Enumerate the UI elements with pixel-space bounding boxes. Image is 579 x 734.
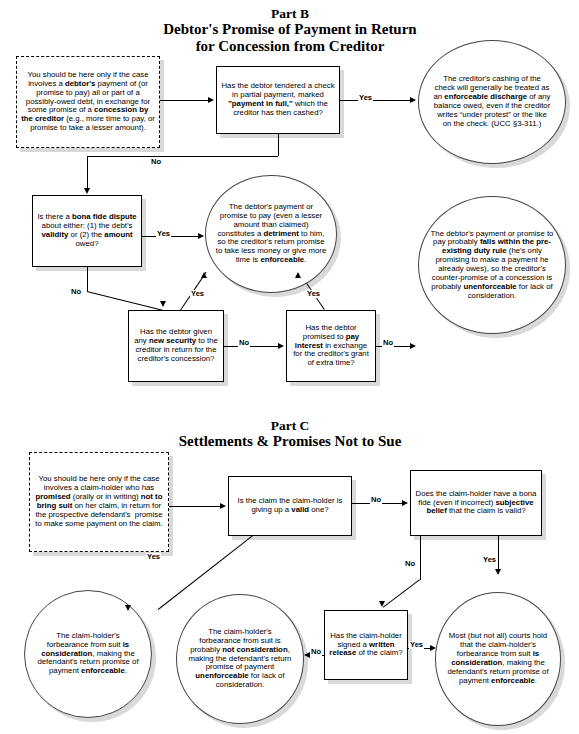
edge-subjective-yes-v bbox=[498, 536, 499, 570]
part-b-title-line2: Debtor's Promise of Payment in Return bbox=[120, 21, 460, 38]
edge-interest-yes-arrow bbox=[295, 272, 301, 278]
edge-check-no-v2 bbox=[87, 156, 88, 189]
question-check-payment-in-full[interactable]: Has the debtor tendered a check in parti… bbox=[216, 66, 340, 134]
edge-subjective-no-arrow bbox=[379, 601, 385, 607]
edge-interest-no-arrow bbox=[410, 343, 416, 349]
outcome-forbearance-not-consideration-text: The claim-holder's forbearance from suit… bbox=[183, 626, 297, 692]
edge-bonafide-yes-arrow bbox=[198, 233, 204, 239]
question-pay-interest-text: Has the debtor promised to pay interest … bbox=[287, 322, 375, 370]
flowchart-page: Part B Debtor's Promise of Payment in Re… bbox=[0, 0, 579, 734]
question-pay-interest[interactable]: Has the debtor promised to pay interest … bbox=[286, 310, 376, 382]
question-subjective-belief-text: Does the claim-holder have a bona fide (… bbox=[411, 488, 541, 519]
edge-valid-yes-arrow bbox=[125, 605, 131, 611]
outcome-most-courts-consideration: Most (but not all) courts hold that the … bbox=[435, 592, 561, 726]
question-bona-fide-dispute-text: Is there a bona fide dispute about eithe… bbox=[33, 211, 141, 251]
part-c-title-line1: Part C bbox=[120, 418, 460, 433]
question-check-payment-in-full-text: Has the debtor tendered a check in parti… bbox=[217, 80, 339, 120]
part-b-title-line1: Part B bbox=[120, 6, 460, 21]
edge-label-subjective-yes: Yes bbox=[482, 556, 497, 564]
edge-check-yes bbox=[340, 100, 410, 101]
edge-valid-no-arrow bbox=[402, 500, 408, 506]
part-c-start-text: You should be here only if the case invo… bbox=[30, 473, 168, 530]
outcome-detriment-enforceable-text: The debtor's payment or promise to pay (… bbox=[211, 201, 331, 267]
part-b-start-text: You should be here only if the case invo… bbox=[17, 69, 159, 135]
question-bona-fide-dispute[interactable]: Is there a bona fide dispute about eithe… bbox=[32, 195, 142, 267]
edge-bonafide-no-arrow bbox=[160, 301, 166, 307]
outcome-forbearance-is-consideration-text: The claim-holder's forbearance from suit… bbox=[31, 630, 145, 678]
edge-label-release-no: No bbox=[310, 648, 322, 656]
outcome-enforceable-discharge: The creditor's cashing of the check will… bbox=[418, 40, 566, 164]
question-valid-claim-text: Is the claim the claim-holder is giving … bbox=[229, 495, 351, 517]
outcome-detriment-enforceable: The debtor's payment or promise to pay (… bbox=[205, 175, 337, 293]
edge-subjective-yes-arrow bbox=[495, 569, 501, 575]
outcome-enforceable-discharge-text: The creditor's cashing of the check will… bbox=[428, 73, 556, 130]
edge-label-security-yes: Yes bbox=[190, 290, 205, 298]
question-valid-claim[interactable]: Is the claim the claim-holder is giving … bbox=[228, 476, 352, 536]
edge-label-valid-yes: Yes bbox=[146, 553, 161, 561]
edge-label-bonafide-yes: Yes bbox=[156, 230, 171, 238]
edge-startc-to-valid bbox=[169, 506, 220, 507]
part-b-start-box: You should be here only if the case invo… bbox=[16, 56, 160, 148]
edge-bonafide-no-diag bbox=[87, 291, 163, 311]
part-b-title: Part B Debtor's Promise of Payment in Re… bbox=[120, 6, 460, 55]
edge-subjective-no-v bbox=[420, 536, 421, 580]
outcome-most-courts-consideration-text: Most (but not all) courts hold that the … bbox=[441, 630, 555, 687]
edge-check-no-arrow bbox=[84, 188, 90, 194]
edge-start-to-check-arrow bbox=[208, 97, 214, 103]
edge-subjective-no-diag bbox=[383, 579, 420, 607]
outcome-forbearance-is-consideration: The claim-holder's forbearance from suit… bbox=[24, 590, 152, 718]
outcome-pre-existing-duty-rule-text: The debtor's payment or promise to pay p… bbox=[425, 228, 559, 303]
edge-label-interest-no: No bbox=[382, 339, 394, 347]
edge-security-yes-arrow bbox=[201, 272, 207, 278]
edge-label-interest-yes: Yes bbox=[306, 290, 321, 298]
part-c-start-box: You should be here only if the case invo… bbox=[29, 452, 169, 552]
edge-check-no-h bbox=[87, 156, 278, 157]
edge-label-subjective-no: No bbox=[404, 560, 416, 568]
edge-label-check-no: No bbox=[150, 158, 162, 166]
edge-label-security-no: No bbox=[238, 339, 250, 347]
edge-start-to-check bbox=[160, 100, 208, 101]
edge-label-release-yes: Yes bbox=[409, 641, 424, 649]
part-c-title-line2: Settlements & Promises Not to Sue bbox=[120, 433, 460, 450]
question-written-release[interactable]: Has the claim-holder signed a written re… bbox=[324, 610, 408, 680]
question-new-security-text: Has the debtor given any new security to… bbox=[129, 326, 223, 366]
edge-label-check-yes: Yes bbox=[358, 94, 373, 102]
part-b-title-line3: for Concession from Creditor bbox=[120, 38, 460, 55]
edge-security-no-arrow bbox=[278, 343, 284, 349]
edge-check-yes-arrow bbox=[410, 97, 416, 103]
question-subjective-belief[interactable]: Does the claim-holder have a bona fide (… bbox=[410, 470, 542, 536]
edge-release-yes-arrow bbox=[430, 645, 436, 651]
edge-label-valid-no: No bbox=[370, 496, 382, 504]
question-new-security[interactable]: Has the debtor given any new security to… bbox=[128, 310, 224, 382]
edge-startc-to-valid-arrow bbox=[220, 503, 226, 509]
edge-bonafide-no-v bbox=[87, 267, 88, 291]
part-c-title: Part C Settlements & Promises Not to Sue bbox=[120, 418, 460, 450]
edge-check-no-v1 bbox=[278, 134, 279, 156]
outcome-pre-existing-duty-rule: The debtor's payment or promise to pay p… bbox=[418, 196, 566, 334]
edge-label-bonafide-no: No bbox=[70, 288, 82, 296]
edge-security-no bbox=[224, 346, 278, 347]
outcome-forbearance-not-consideration: The claim-holder's forbearance from suit… bbox=[176, 594, 304, 724]
question-written-release-text: Has the claim-holder signed a written re… bbox=[325, 630, 407, 661]
